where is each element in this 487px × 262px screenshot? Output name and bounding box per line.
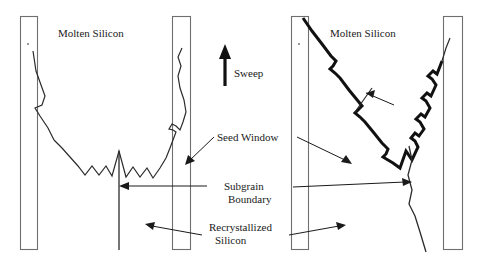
subgrain-leader-right <box>293 178 412 187</box>
speck-mark <box>298 43 300 45</box>
speck-mark <box>27 43 29 45</box>
label-molten-silicon-left: Molten Silicon <box>58 27 124 39</box>
subgrain-boundary-right <box>408 146 426 252</box>
label-seed-window: Seed Window <box>217 131 278 143</box>
melt-direction-arrow <box>366 90 394 105</box>
left-panel <box>21 17 191 251</box>
seed-window-bar-3 <box>292 17 309 250</box>
diagram-root: Molten Silicon Molten Silicon Sweep Seed… <box>0 0 487 262</box>
label-recrystallized-line2: Silicon <box>215 234 247 246</box>
sweep-arrow-head <box>219 44 231 59</box>
label-subgrain-boundary-line2: Boundary <box>228 193 272 205</box>
label-molten-silicon-right: Molten Silicon <box>330 27 396 39</box>
label-recrystallized-line1: Recrystallized <box>209 221 272 233</box>
label-subgrain-boundary-line1: Subgrain <box>224 180 264 192</box>
right-panel <box>292 17 463 253</box>
seed-window-bar-1 <box>21 17 38 250</box>
sweep-arrow <box>219 44 231 86</box>
recrystallization-diagram: Molten Silicon Molten Silicon Sweep Seed… <box>0 0 487 262</box>
label-sweep: Sweep <box>234 67 264 79</box>
seed-window-bar-4 <box>444 17 463 250</box>
subgrain-leader-left <box>119 182 207 190</box>
interface-left-zigzag <box>54 112 186 178</box>
